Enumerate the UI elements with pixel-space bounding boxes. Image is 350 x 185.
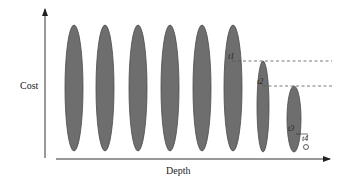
ellipse-4 xyxy=(161,25,179,151)
threshold-label-t1: t1 xyxy=(228,52,234,61)
ellipse-group xyxy=(65,25,301,152)
ellipse-1 xyxy=(65,25,83,151)
cost-depth-diagram: t1t2t3t4 Cost Depth xyxy=(0,0,350,185)
ellipse-8 xyxy=(287,86,301,152)
ellipse-5 xyxy=(193,25,211,151)
y-axis-label: Cost xyxy=(20,80,38,91)
ellipse-3 xyxy=(129,25,147,151)
diagram-canvas: t1t2t3t4 xyxy=(0,0,350,185)
x-axis-label: Depth xyxy=(166,165,190,176)
threshold-group: t1t2t3t4 xyxy=(228,52,332,150)
threshold-label-t2: t2 xyxy=(257,77,263,86)
threshold-label-t4: t4 xyxy=(302,134,308,143)
ellipse-2 xyxy=(96,25,114,151)
ellipse-7 xyxy=(257,61,269,152)
threshold-label-t3: t3 xyxy=(288,124,294,133)
t4-empty-node-icon xyxy=(304,145,309,150)
ellipse-6 xyxy=(224,25,242,151)
